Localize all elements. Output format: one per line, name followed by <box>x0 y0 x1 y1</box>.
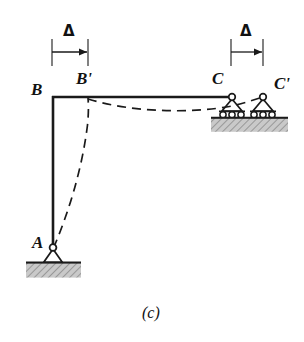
label-delta-right: Δ <box>240 24 252 39</box>
figure-caption: (c) <box>142 305 160 321</box>
pin-circle-a <box>50 244 57 251</box>
ground-hatch-a <box>26 264 81 278</box>
dimension-delta-left <box>52 39 88 66</box>
label-joint-b: B <box>31 81 42 98</box>
roller-support-c-displaced <box>250 94 276 118</box>
ground-hatch-c <box>211 119 288 132</box>
label-joint-a: A <box>32 234 43 251</box>
deflected-column-ab <box>54 98 89 248</box>
ground-c <box>211 118 288 132</box>
roller-pin-circle-c <box>229 94 236 101</box>
label-joint-c-displaced: C' <box>274 75 290 92</box>
figure-container: Δ Δ B B' C C' A (c) <box>0 0 304 342</box>
label-delta-left: Δ <box>63 24 75 39</box>
frame-deflection-drawing <box>0 0 304 342</box>
roller-pin-circle-c-displaced <box>260 94 267 101</box>
label-joint-c: C <box>212 70 223 87</box>
label-joint-b-displaced: B' <box>76 70 92 87</box>
dimension-delta-right <box>231 39 263 66</box>
